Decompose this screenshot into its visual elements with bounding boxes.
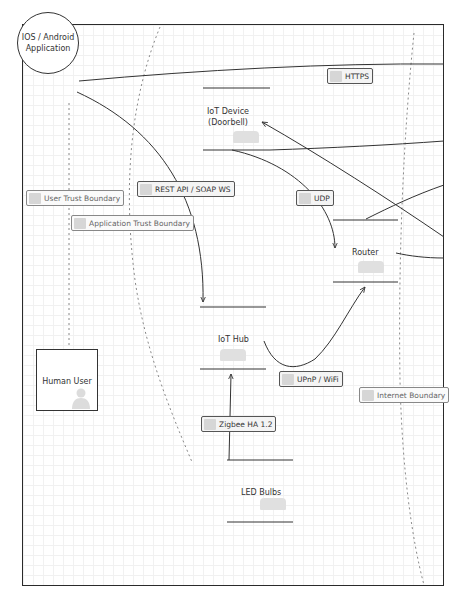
human-user-label: Human User: [37, 376, 97, 387]
led-bulbs-label: LED Bulbs: [241, 487, 281, 498]
led-bulbs-store[interactable]: LED Bulbs: [227, 461, 293, 521]
application-trust-boundary-label: Application Trust Boundary: [89, 219, 190, 228]
flow-router-to-internet-upper[interactable]: [366, 185, 444, 219]
https-label: HTTPS: [345, 72, 369, 81]
flow-upnp-hub-to-router[interactable]: [264, 287, 365, 367]
application-trust-boundary-arc[interactable]: [129, 27, 192, 462]
data-store-icon: [358, 261, 384, 273]
rest-api-label: REST API / SOAP WS: [155, 185, 231, 194]
flow-icon: [282, 374, 294, 385]
upnp-flow-tag[interactable]: UPnP / WiFi: [279, 371, 343, 387]
upnp-label: UPnP / WiFi: [297, 375, 339, 384]
rest-api-flow-tag[interactable]: REST API / SOAP WS: [137, 181, 235, 197]
zigbee-flow-tag[interactable]: Zigbee HA 1.2: [201, 416, 276, 432]
app-label-line1: IOS / Android: [18, 32, 78, 43]
user-trust-boundary-label: User Trust Boundary: [44, 194, 120, 203]
udp-flow-tag[interactable]: UDP: [296, 190, 334, 206]
diagram-canvas: IOS / Android Application Human User IoT…: [0, 0, 465, 605]
router-store[interactable]: Router: [333, 221, 398, 281]
flow-https[interactable]: [79, 64, 444, 81]
flow-icon: [299, 193, 311, 204]
udp-label: UDP: [314, 194, 330, 203]
boundary-icon: [362, 390, 374, 401]
application-trust-boundary-tag[interactable]: Application Trust Boundary: [71, 215, 194, 231]
internet-boundary-tag[interactable]: Internet Boundary: [359, 387, 449, 403]
boundary-icon: [74, 218, 86, 229]
router-label: Router: [352, 247, 379, 258]
iot-device-label-line1: IoT Device: [203, 106, 253, 117]
zigbee-label: Zigbee HA 1.2: [219, 420, 272, 429]
iot-hub-store[interactable]: IoT Hub: [200, 308, 266, 368]
internet-boundary-label: Internet Boundary: [377, 391, 445, 400]
iot-hub-label: IoT Hub: [218, 334, 249, 345]
internet-boundary-arc[interactable]: [400, 33, 424, 585]
human-user-entity[interactable]: Human User: [36, 349, 98, 411]
flow-router-to-internet-lower[interactable]: [396, 253, 444, 258]
person-icon: [70, 387, 92, 409]
app-label-line2: Application: [18, 43, 78, 54]
data-store-icon: [233, 131, 259, 143]
flow-icon: [140, 184, 152, 195]
flow-icon: [330, 71, 342, 82]
user-trust-boundary-tag[interactable]: User Trust Boundary: [26, 190, 124, 206]
iot-device-store[interactable]: IoT Device (Doorbell): [203, 89, 270, 149]
flow-icon: [204, 419, 216, 430]
boundary-icon: [29, 193, 41, 204]
https-flow-tag[interactable]: HTTPS: [327, 68, 373, 84]
ios-android-application-process[interactable]: IOS / Android Application: [17, 12, 79, 74]
data-store-icon: [260, 498, 286, 510]
iot-device-label-line2: (Doorbell): [203, 117, 253, 128]
data-store-icon: [220, 349, 246, 361]
